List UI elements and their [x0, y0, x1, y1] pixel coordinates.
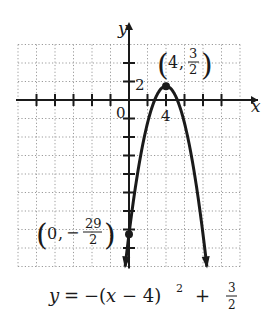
svg-text:2: 2 — [189, 62, 197, 77]
svg-text:2: 2 — [89, 232, 97, 247]
y-axis-label: y — [117, 18, 128, 38]
svg-text:): ) — [201, 47, 213, 82]
origin-label: 0 — [116, 104, 126, 122]
svg-text:+: + — [195, 285, 210, 306]
equation-caption: y = −(x − 4) 2 + 3 2 — [48, 281, 237, 312]
svg-text:29: 29 — [85, 216, 102, 231]
svg-text:4: 4 — [168, 53, 178, 72]
y-tick-label-2: 2 — [135, 76, 145, 94]
svg-text:,: , — [179, 53, 184, 72]
y-intercept-dot — [125, 230, 133, 238]
svg-text:y: y — [48, 285, 60, 306]
x-axis-label: x — [251, 96, 261, 116]
svg-text:): ) — [104, 217, 116, 252]
svg-text:3: 3 — [228, 281, 236, 295]
svg-text:=: = — [64, 285, 79, 306]
svg-text:,: , — [58, 224, 63, 243]
parabola-chart: y x 0 4 2 ( 4 , 3 2 ) ( 0 , − 29 2 ) y =… — [0, 0, 271, 322]
x-tick-label-4: 4 — [161, 107, 171, 125]
svg-text:2: 2 — [176, 282, 183, 295]
svg-text:0: 0 — [47, 224, 57, 243]
y-intercept-label: ( 0 , − 29 2 ) — [36, 216, 116, 252]
svg-text:2: 2 — [228, 298, 236, 312]
vertex-dot — [162, 82, 170, 90]
svg-text:−: − — [66, 223, 79, 242]
svg-text:(: ( — [157, 47, 169, 82]
svg-text:−(x − 4): −(x − 4) — [84, 285, 161, 306]
svg-text:3: 3 — [189, 46, 197, 61]
svg-text:(: ( — [36, 217, 48, 252]
